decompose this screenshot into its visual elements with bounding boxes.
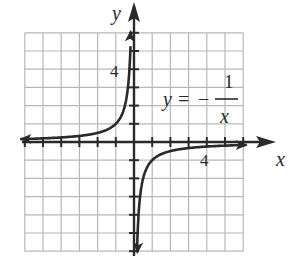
y-axis-label: y <box>110 2 121 25</box>
hyperbola-chart: y x 4 4 y = − 1 x <box>0 0 302 262</box>
curve-left-branch <box>20 46 130 139</box>
x-tick-label-4: 4 <box>200 151 209 170</box>
equation-equals: = <box>178 88 189 110</box>
x-axis-label: x <box>275 148 285 170</box>
equation-denominator: x <box>219 105 229 127</box>
equation-numerator: 1 <box>224 71 234 92</box>
y-tick-label-4: 4 <box>110 62 119 81</box>
equation-label: y = − 1 x <box>161 71 238 127</box>
equation-lhs: y <box>161 88 172 111</box>
equation-minus: − <box>198 88 209 110</box>
axes <box>22 2 276 256</box>
